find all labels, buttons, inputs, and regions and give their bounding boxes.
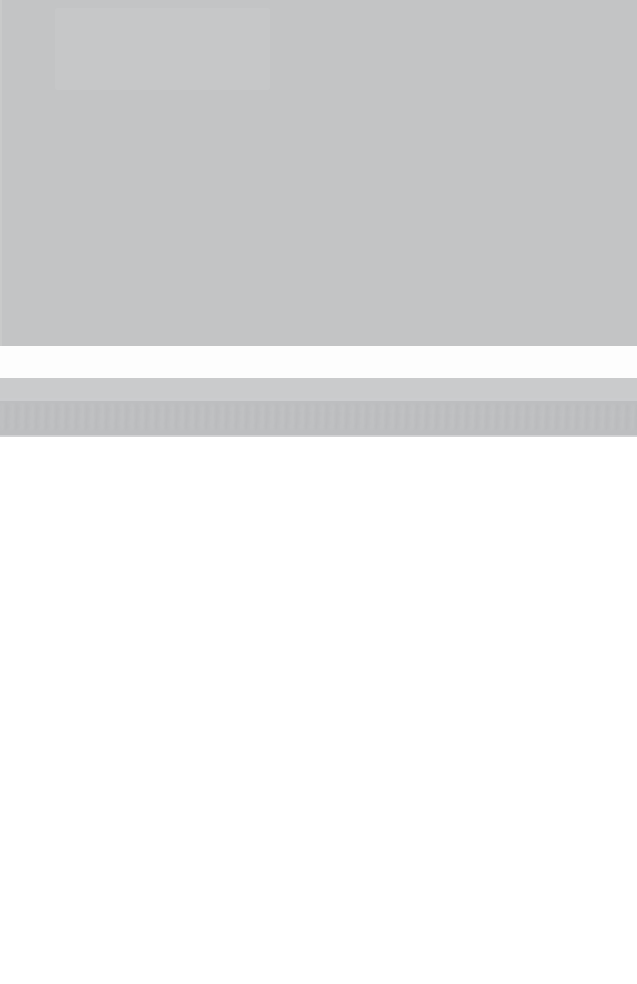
illegible-text-ghost xyxy=(0,404,637,430)
screenshot-root xyxy=(0,0,637,984)
blurred-label-bar xyxy=(0,398,637,437)
blurred-bar-top-edge xyxy=(0,398,637,401)
white-separator-strip xyxy=(0,346,637,378)
chrome-content-patch xyxy=(55,8,270,90)
empty-page-body xyxy=(0,437,637,984)
upper-chrome-panel xyxy=(0,0,637,346)
light-gray-strip xyxy=(0,378,637,398)
